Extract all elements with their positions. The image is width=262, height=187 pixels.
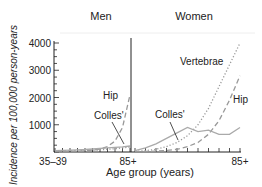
x-tick-label: 85+	[232, 156, 249, 167]
label-women-colles: Colles'	[155, 109, 185, 120]
label-women-vertebrae: Vertebrae	[180, 56, 224, 67]
x-axis-label: Age group (years)	[106, 166, 194, 178]
label-men-colles: Colles'	[94, 110, 124, 121]
y-tick-label: 4000	[29, 38, 52, 49]
fracture-incidence-chart: Incidence per 100,000 person-years Age g…	[0, 0, 262, 187]
x-tick-label: 85+	[120, 156, 137, 167]
leader-women-colles	[170, 122, 178, 140]
y-tick-label: 1000	[29, 120, 52, 131]
leader-men-colles	[112, 122, 124, 144]
y-axis-label: Incidence per 100,000 person-years	[8, 25, 19, 185]
x-tick-label: 35–39	[39, 156, 67, 167]
axes-group: 100020003000400035–3985+85+	[29, 33, 255, 167]
panel-title-men: Men	[90, 10, 111, 22]
panel-title-women: Women	[175, 10, 213, 22]
series-labels-group: HipColles'VertebraeHipColles'	[94, 56, 248, 144]
label-women-hip: Hip	[233, 94, 248, 105]
y-tick-label: 2000	[29, 93, 52, 104]
label-men-hip: Hip	[103, 90, 118, 101]
y-tick-label: 3000	[29, 65, 52, 76]
series-line-women-hip	[135, 76, 240, 152]
series-line-men-hip	[55, 95, 130, 152]
